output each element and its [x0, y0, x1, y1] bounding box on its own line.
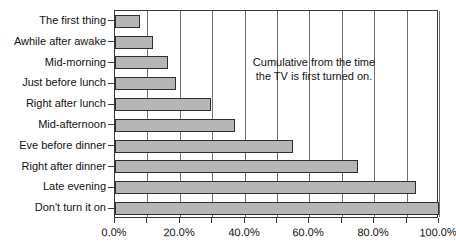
bar [115, 36, 153, 49]
category-label: Awhile after awake [0, 31, 106, 52]
gridline-100 [439, 11, 440, 217]
plot-area [114, 10, 438, 218]
category-label: Right after lunch [0, 93, 106, 114]
bar-row [115, 115, 439, 136]
x-tick-20 [179, 218, 180, 223]
bar [115, 119, 235, 132]
chart-annotation: Cumulative from the time the TV is first… [226, 55, 402, 83]
x-tick-70 [341, 218, 342, 223]
bar-row [115, 136, 439, 157]
bar [115, 160, 358, 173]
x-tick-80 [373, 218, 374, 223]
bar [115, 77, 176, 90]
x-axis-label: 40.0% [228, 226, 259, 239]
x-tick-40 [244, 218, 245, 223]
bar [115, 98, 211, 111]
bars-layer [115, 11, 437, 217]
cumulative-tv-viewing-bar-chart: The first thingAwhile after awakeMid-mor… [0, 0, 456, 248]
category-label: Right after dinner [0, 156, 106, 177]
annotation-line-2: the TV is first turned on. [226, 69, 402, 83]
bar-row [115, 11, 439, 32]
category-label: Mid-afternoon [0, 114, 106, 135]
bar [115, 15, 140, 28]
x-tick-10 [146, 218, 147, 223]
x-tick-30 [211, 218, 212, 223]
x-axis-ticks [114, 218, 438, 224]
category-label: Don't turn it on [0, 197, 106, 218]
x-axis-labels: 0.0%20.0%40.0%60.0%80.0%100.0% [0, 226, 456, 242]
bar-row [115, 157, 439, 178]
bar-row [115, 198, 439, 219]
x-tick-0 [114, 218, 115, 223]
category-axis: The first thingAwhile after awakeMid-mor… [0, 10, 106, 218]
category-label: Just before lunch [0, 72, 106, 93]
x-axis-label: 60.0% [293, 226, 324, 239]
bar [115, 181, 416, 194]
x-tick-100 [438, 218, 439, 223]
category-label: Eve before dinner [0, 135, 106, 156]
bar-row [115, 177, 439, 198]
category-label: Mid-morning [0, 52, 106, 73]
category-label: Late evening [0, 176, 106, 197]
x-tick-50 [276, 218, 277, 223]
x-tick-90 [406, 218, 407, 223]
category-label: The first thing [0, 10, 106, 31]
bar [115, 56, 168, 69]
x-axis-label: 100.0% [419, 226, 456, 239]
x-axis-label: 80.0% [357, 226, 388, 239]
x-tick-60 [308, 218, 309, 223]
bar [115, 202, 439, 215]
bar-row [115, 32, 439, 53]
bar-row [115, 94, 439, 115]
bar [115, 140, 293, 153]
x-axis-label: 20.0% [163, 226, 194, 239]
x-axis-label: 0.0% [101, 226, 126, 239]
annotation-line-1: Cumulative from the time [226, 55, 402, 69]
